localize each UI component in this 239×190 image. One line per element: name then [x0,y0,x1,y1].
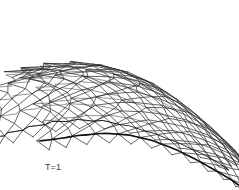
figure-canvas: T=1 P=96 [0,0,239,190]
plot-background [0,0,239,190]
stent-mesh-wireframe [0,0,239,190]
annotation-block: T=1 P=96 [45,140,67,190]
time-label: T=1 [45,162,67,173]
